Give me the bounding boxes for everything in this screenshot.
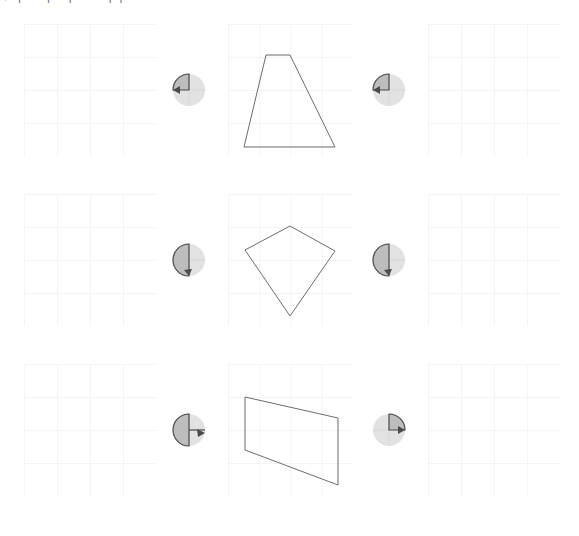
shape-grid-center[interactable] — [228, 194, 353, 326]
rotation-dial-right[interactable] — [372, 73, 406, 107]
rotation-dial-left[interactable] — [172, 243, 206, 277]
truncated-header-strip: ¬ ̄ ̄ | ̄ ̄ ̄ ̄ ̄ ̄ | ̄ ̄ ̄ ̄ | ̄ ̄ ̄ ̄ … — [0, 0, 579, 9]
empty-grid-right[interactable] — [428, 364, 560, 496]
grid-lines — [24, 364, 156, 496]
puzzle-row — [0, 194, 579, 344]
dial-wedge — [173, 74, 189, 90]
grid-lines — [24, 194, 156, 326]
empty-grid-right[interactable] — [428, 194, 560, 326]
dial-wedge — [373, 74, 389, 90]
shape-grid-center[interactable] — [228, 24, 353, 156]
empty-grid-right[interactable] — [428, 24, 560, 156]
shape-trapezoid — [244, 55, 335, 147]
grid-lines — [24, 24, 156, 156]
shape-kite — [245, 226, 335, 316]
empty-grid-left[interactable] — [24, 364, 156, 496]
grid-lines — [428, 194, 560, 326]
empty-grid-left[interactable] — [24, 194, 156, 326]
shape-grid-center[interactable] — [228, 364, 353, 496]
rotation-dial-right[interactable] — [372, 243, 406, 277]
puzzle-row — [0, 364, 579, 514]
dial-wedge — [173, 414, 189, 446]
empty-grid-left[interactable] — [24, 24, 156, 156]
dial-wedge — [389, 414, 405, 430]
puzzle-row — [0, 24, 579, 174]
shape-quadrilateral — [245, 397, 338, 485]
rotation-dial-right[interactable] — [372, 413, 406, 447]
rotation-dial-left[interactable] — [172, 73, 206, 107]
rotation-dial-left[interactable] — [172, 413, 206, 447]
grid-lines — [428, 364, 560, 496]
grid-lines — [428, 24, 560, 156]
page-root: ¬ ̄ ̄ | ̄ ̄ ̄ ̄ ̄ ̄ | ̄ ̄ ̄ ̄ | ̄ ̄ ̄ ̄ … — [0, 0, 579, 536]
header-text: ¬ ̄ ̄ | ̄ ̄ ̄ ̄ ̄ ̄ | ̄ ̄ ̄ ̄ | ̄ ̄ ̄ ̄ … — [0, 0, 579, 3]
